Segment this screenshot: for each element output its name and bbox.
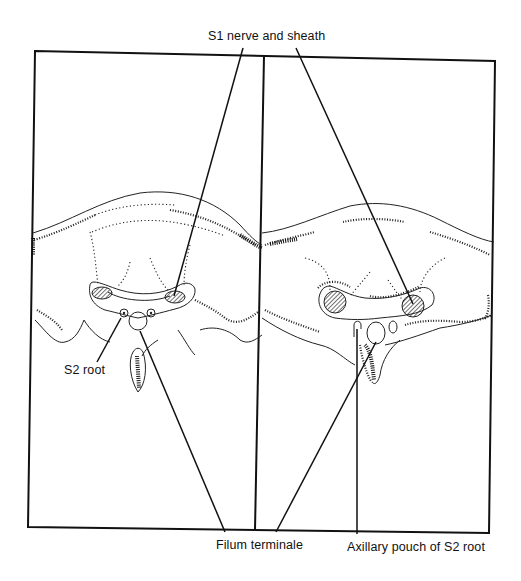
s2-root-leader: [97, 318, 121, 362]
label-axillary-pouch: Axillary pouch of S2 root: [347, 540, 485, 554]
sacral-cross-section-figure: S1 nerve and sheath S2 root Filum termin…: [0, 0, 521, 581]
s1-leader-right: [296, 48, 413, 304]
leader-lines: [97, 48, 413, 534]
label-s1-nerve-and-sheath: S1 nerve and sheath: [208, 29, 325, 43]
panel-divider: [255, 56, 264, 530]
right-sacrum-drawing: [262, 204, 494, 384]
left-sacrum-drawing: [33, 192, 262, 392]
label-s2-root: S2 root: [64, 363, 105, 377]
filum-leader-right: [276, 342, 376, 532]
diagram-canvas: [0, 0, 521, 581]
label-filum-terminale: Filum terminale: [216, 538, 303, 552]
filum-leader-left: [140, 331, 225, 532]
s1-leader-left: [174, 48, 243, 296]
